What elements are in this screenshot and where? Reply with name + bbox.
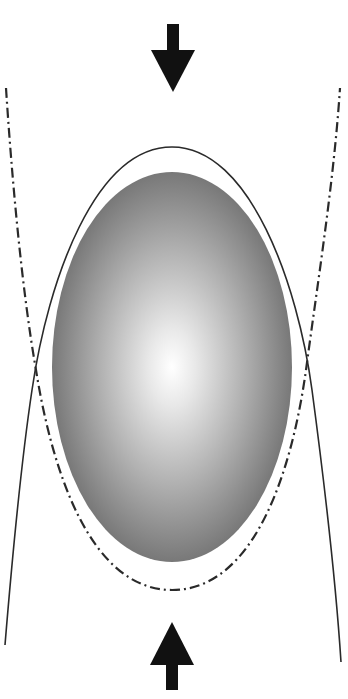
bottom-arrow-head	[150, 622, 194, 665]
arrow-up-icon	[150, 622, 194, 690]
diagram-canvas	[0, 0, 348, 699]
top-arrow-shaft	[167, 24, 179, 52]
arrow-down-icon	[151, 24, 195, 92]
top-arrow-head	[151, 50, 195, 92]
shaded-ellipse	[52, 172, 292, 562]
compression-diagram	[0, 0, 348, 699]
bottom-arrow-shaft	[166, 663, 178, 690]
